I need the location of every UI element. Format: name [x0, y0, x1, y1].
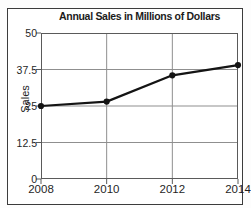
y-tick-label: 12.5: [4, 136, 37, 150]
plot-svg: [41, 33, 238, 179]
chart-title: Annual Sales in Millions of Dollars: [41, 10, 238, 22]
x-tick-label: 2014: [220, 183, 251, 195]
y-tick-label: 25: [4, 99, 37, 113]
x-tick-label: 2010: [89, 183, 125, 195]
x-tick-label: 2008: [23, 183, 59, 195]
x-tick-label: 2012: [154, 183, 190, 195]
y-tick-label: 37.5: [4, 63, 37, 77]
plot-area: [41, 33, 238, 179]
chart-image: Annual Sales in Millions of Dollars Sale…: [0, 0, 251, 208]
y-tick-label: 50: [4, 26, 37, 40]
